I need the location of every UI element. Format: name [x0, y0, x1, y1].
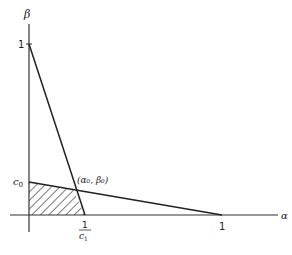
y-tick-one-label: 1: [18, 39, 24, 50]
svg-text:c1: c1: [79, 231, 88, 242]
y-axis-label: β: [23, 8, 30, 21]
feasible-region-diagram: β α 1 c0 1 1 c1 (α₀, β₀): [0, 0, 292, 255]
intersection-label: (α₀, β₀): [77, 175, 109, 185]
svg-text:1: 1: [82, 220, 88, 230]
x-tick-one-label: 1: [219, 221, 225, 232]
x-axis-label: α: [281, 210, 288, 221]
y-tick-c0-label: c0: [13, 176, 23, 189]
x-tick-inv-c1-label: 1 c1: [79, 220, 91, 242]
